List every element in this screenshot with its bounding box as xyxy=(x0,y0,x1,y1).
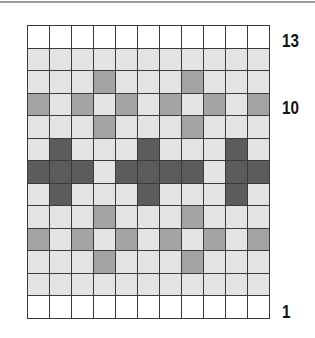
chart-cell xyxy=(248,26,269,48)
chart-cell xyxy=(28,296,49,318)
chart-cell xyxy=(248,251,269,273)
chart-cell xyxy=(226,116,247,138)
chart-cell xyxy=(204,296,225,318)
chart-cell xyxy=(94,139,115,161)
chart-cell xyxy=(116,296,137,318)
chart-cell xyxy=(28,161,49,183)
chart-cell xyxy=(204,274,225,296)
chart-cell xyxy=(182,94,203,116)
chart-cell xyxy=(182,116,203,138)
chart-cell xyxy=(50,184,71,206)
chart-cell xyxy=(160,94,181,116)
chart-cell xyxy=(28,49,49,71)
chart-cell xyxy=(204,161,225,183)
chart-cell xyxy=(160,229,181,251)
chart-cell xyxy=(248,161,269,183)
chart-cell xyxy=(248,94,269,116)
chart-cell xyxy=(138,229,159,251)
chart-cell xyxy=(116,229,137,251)
chart-cell xyxy=(94,229,115,251)
chart-cell xyxy=(50,116,71,138)
top-rule xyxy=(0,1,315,3)
chart-cell xyxy=(204,26,225,48)
chart-cell xyxy=(72,49,93,71)
chart-cell xyxy=(116,184,137,206)
row-label-1: 1 xyxy=(282,302,290,321)
chart-cell xyxy=(248,274,269,296)
chart-cell xyxy=(160,206,181,228)
chart-cell xyxy=(28,94,49,116)
chart-cell xyxy=(72,296,93,318)
chart-cell xyxy=(204,116,225,138)
chart-cell xyxy=(28,139,49,161)
chart-cell xyxy=(116,251,137,273)
chart-cell xyxy=(28,26,49,48)
chart-cell xyxy=(138,71,159,93)
chart-cell xyxy=(50,161,71,183)
chart-cell xyxy=(94,26,115,48)
chart-cell xyxy=(72,116,93,138)
row-label-13: 13 xyxy=(282,31,299,50)
chart-cell xyxy=(72,229,93,251)
chart-cell xyxy=(160,296,181,318)
chart-cell xyxy=(72,71,93,93)
chart-cell xyxy=(94,116,115,138)
chart-cell xyxy=(50,229,71,251)
chart-cell xyxy=(138,49,159,71)
chart-cell xyxy=(50,139,71,161)
chart-cell xyxy=(226,274,247,296)
chart-cell xyxy=(248,49,269,71)
chart-cell xyxy=(94,206,115,228)
chart-cell xyxy=(204,71,225,93)
chart-cell xyxy=(94,71,115,93)
chart-cell xyxy=(248,296,269,318)
chart-cell xyxy=(50,26,71,48)
chart-cell xyxy=(182,139,203,161)
chart-cell xyxy=(116,49,137,71)
chart-cell xyxy=(204,49,225,71)
chart-grid xyxy=(27,25,270,319)
chart-cell xyxy=(116,71,137,93)
chart-cell xyxy=(50,49,71,71)
chart-cell xyxy=(204,139,225,161)
chart-cell xyxy=(72,139,93,161)
chart-cell xyxy=(28,274,49,296)
chart-cell xyxy=(226,94,247,116)
chart-cell xyxy=(28,206,49,228)
chart-cell xyxy=(138,251,159,273)
chart-cell xyxy=(226,71,247,93)
chart-cell xyxy=(248,139,269,161)
chart-cell xyxy=(116,206,137,228)
chart-cell xyxy=(116,139,137,161)
chart-cell xyxy=(138,274,159,296)
chart-cell xyxy=(138,296,159,318)
chart-cell xyxy=(116,161,137,183)
chart-cell xyxy=(94,251,115,273)
chart-cell xyxy=(160,161,181,183)
chart-cell xyxy=(248,184,269,206)
chart-cell xyxy=(226,251,247,273)
chart-cell xyxy=(50,296,71,318)
chart-cell xyxy=(182,49,203,71)
chart-cell xyxy=(182,274,203,296)
chart-cell xyxy=(138,139,159,161)
chart-cell xyxy=(160,116,181,138)
chart-cell xyxy=(226,296,247,318)
chart-cell xyxy=(94,274,115,296)
chart-cell xyxy=(116,26,137,48)
chart-cell xyxy=(94,184,115,206)
chart-cell xyxy=(28,71,49,93)
chart-cell xyxy=(182,71,203,93)
chart-cell xyxy=(182,229,203,251)
chart-cell xyxy=(226,49,247,71)
chart-cell xyxy=(50,274,71,296)
chart-cell xyxy=(94,94,115,116)
chart-cell xyxy=(28,184,49,206)
chart-cell xyxy=(160,274,181,296)
chart-cell xyxy=(248,229,269,251)
chart-cell xyxy=(138,26,159,48)
chart-cell xyxy=(116,116,137,138)
chart-cell xyxy=(204,94,225,116)
chart-cell xyxy=(50,206,71,228)
chart-cell xyxy=(248,71,269,93)
